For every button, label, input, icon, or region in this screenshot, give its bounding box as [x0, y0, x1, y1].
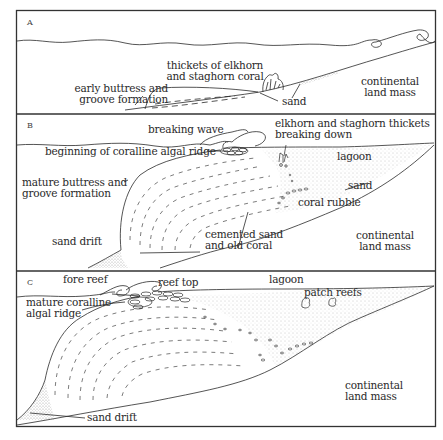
label-mature-algal-ridge: mature coralline algal ridge — [26, 297, 111, 319]
label-reef-top: reef top — [158, 277, 198, 288]
label-fore-reef: fore reef — [63, 274, 107, 285]
algal-ridge-icon — [128, 291, 190, 309]
label-coral-rubble: coral rubble — [298, 197, 361, 208]
label-continental-land-c: continental land mass — [345, 380, 403, 402]
label-mature-buttress: mature buttress and groove formation — [22, 177, 127, 199]
panel-letter-a: A — [27, 17, 33, 28]
panel-letter-c: C — [27, 277, 33, 288]
label-lagoon-b: lagoon — [337, 151, 372, 162]
reef-formation-diagram: A B C thickets of elkhorn and staghorn c… — [0, 0, 443, 440]
label-patch-reefs: patch reefs — [304, 287, 362, 298]
label-continental-land-a: continental land mass — [350, 76, 430, 98]
label-breaking-wave: breaking wave — [148, 124, 224, 135]
panel-letter-b: B — [27, 120, 33, 131]
label-early-buttress: early buttress and groove formation — [68, 83, 168, 105]
label-beginning-algal-ridge: beginning of coralline algal ridge — [45, 146, 216, 157]
label-sand-drift-c: sand drift — [87, 412, 137, 423]
label-cemented-sand: cemented sand and old coral — [205, 229, 283, 251]
label-lagoon-c: lagoon — [269, 274, 304, 285]
label-sand-a: sand — [282, 96, 306, 107]
label-continental-land-b: continental land mass — [345, 230, 425, 252]
label-thickets-elkhorn: thickets of elkhorn and staghorn coral — [165, 60, 265, 82]
label-sand-b: sand — [348, 180, 372, 191]
label-sand-drift-b: sand drift — [52, 236, 102, 247]
label-elkhorn-breaking: elkhorn and staghorn thickets breaking d… — [275, 118, 430, 140]
